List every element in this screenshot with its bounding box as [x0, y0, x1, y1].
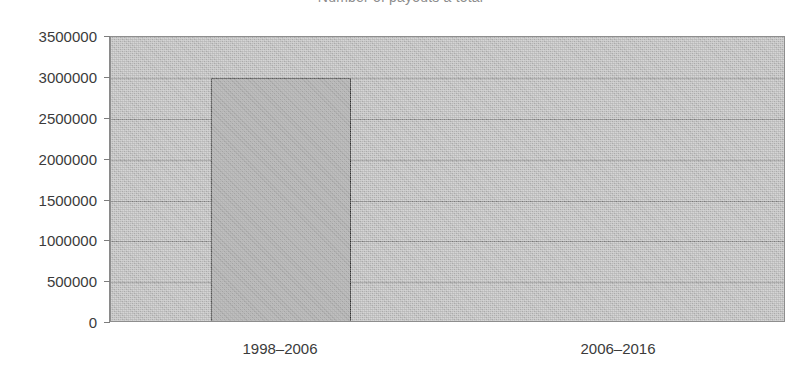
y-axis-label-1000000: 1000000 — [0, 233, 97, 248]
bar-1998-2006[interactable] — [211, 78, 351, 322]
y-axis-label-1500000: 1500000 — [0, 193, 97, 208]
plot-area — [110, 36, 785, 322]
y-axis-label-0: 0 — [0, 315, 97, 330]
y-axis-label-2000000: 2000000 — [0, 152, 97, 167]
y-axis-label-3500000: 3500000 — [0, 29, 97, 44]
bar-chart-figure: 3500000 3000000 2500000 2000000 1500000 … — [0, 0, 801, 372]
y-axis-label-500000: 500000 — [0, 274, 97, 289]
y-axis-label-3000000: 3000000 — [0, 70, 97, 85]
y-axis-label-2500000: 2500000 — [0, 111, 97, 126]
x-axis-label-2006-2016: 2006–2016 — [449, 340, 787, 358]
bar-texture — [212, 79, 350, 322]
x-axis-label-1998-2006: 1998–2006 — [111, 340, 449, 358]
y-tick-mark — [104, 322, 110, 323]
